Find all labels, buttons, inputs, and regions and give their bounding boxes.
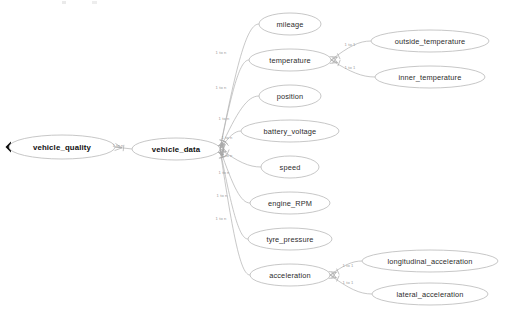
node-inner_temperature[interactable]: inner_temperature [375, 66, 485, 88]
er-diagram: vehicle_qualityvehicle_datamileagetemper… [0, 0, 505, 317]
node-label-vehicle_data: vehicle_data [152, 145, 201, 154]
node-vehicle_quality[interactable]: vehicle_quality [9, 135, 115, 159]
node-longitudinal_acceleration[interactable]: longitudinal_acceleration [362, 250, 498, 272]
node-label-acceleration: acceleration [269, 271, 311, 280]
node-label-engine_RPM: engine_RPM [268, 199, 312, 208]
node-label-mileage: mileage [277, 20, 304, 29]
edge-label-vehicle_data-to-mileage: 1 to n [216, 50, 227, 55]
node-acceleration[interactable]: acceleration [250, 264, 330, 286]
edge-label-temperature-to-outside_temperature: 1 to 1 [345, 42, 356, 47]
node-label-speed: speed [280, 163, 301, 172]
node-outside_temperature[interactable]: outside_temperature [371, 30, 489, 52]
node-vehicle_data[interactable]: vehicle_data [132, 138, 220, 160]
edge-label-vehicle_data-to-position: 1 to n [219, 116, 230, 121]
edge-vehicle_data-to-acceleration [220, 149, 250, 275]
edge-label-vehicle_data-to-engine_RPM: 1 to n [219, 170, 230, 175]
node-label-position: position [277, 92, 304, 101]
top-edge-artifact [62, 1, 97, 4]
node-tyre_pressure[interactable]: tyre_pressure [248, 228, 332, 250]
edge-layer [115, 24, 375, 294]
diagram-canvas: vehicle_qualityvehicle_datamileagetemper… [0, 0, 505, 317]
edge-label-layer: 1 to n1 to n1 to n1 to n1 to n1 to n1 to… [113, 42, 356, 285]
edge-label-vehicle_quality-to-vehicle_data: 1 to n [113, 143, 124, 148]
edge-label-acceleration-to-lateral_acceleration: 1 to 1 [343, 280, 354, 285]
node-label-vehicle_quality: vehicle_quality [33, 143, 92, 152]
node-mileage[interactable]: mileage [259, 13, 321, 35]
node-lateral_acceleration[interactable]: lateral_acceleration [372, 283, 488, 305]
edge-label-vehicle_data-to-speed: 1 to n [222, 153, 233, 158]
node-speed[interactable]: speed [261, 156, 319, 178]
edge-label-vehicle_data-to-temperature: 1 to n [216, 85, 227, 90]
node-label-inner_temperature: inner_temperature [399, 73, 462, 82]
node-label-outside_temperature: outside_temperature [395, 37, 466, 46]
node-label-battery_voltage: battery_voltage [264, 127, 317, 136]
node-label-temperature: temperature [269, 56, 311, 65]
edge-label-vehicle_data-to-acceleration: 1 to n [216, 216, 227, 221]
node-battery_voltage[interactable]: battery_voltage [241, 120, 339, 142]
node-position[interactable]: position [259, 85, 321, 107]
node-label-longitudinal_acceleration: longitudinal_acceleration [387, 257, 472, 266]
edge-label-vehicle_data-to-tyre_pressure: 1 to n [217, 193, 228, 198]
edge-label-vehicle_data-to-battery_voltage: 1 to n [222, 135, 233, 140]
edge-label-acceleration-to-longitudinal_acceleration: 1 to 1 [343, 263, 354, 268]
node-temperature[interactable]: temperature [249, 49, 331, 71]
node-label-lateral_acceleration: lateral_acceleration [396, 290, 463, 299]
node-label-tyre_pressure: tyre_pressure [266, 235, 313, 244]
node-engine_RPM[interactable]: engine_RPM [250, 192, 330, 214]
edge-label-temperature-to-inner_temperature: 1 to 1 [345, 65, 356, 70]
node-layer: vehicle_qualityvehicle_datamileagetemper… [9, 13, 498, 305]
